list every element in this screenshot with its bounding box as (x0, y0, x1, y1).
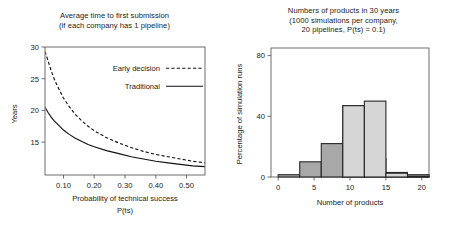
right-y-axis-label: Percentage of simulation runs (235, 64, 244, 165)
left-ytick-30: 30 (31, 43, 39, 52)
left-y-ticks (42, 47, 46, 142)
histogram-bar (407, 176, 429, 177)
histogram-bar (386, 173, 408, 177)
curve-traditional (45, 107, 205, 166)
left-xtick-050: 0.50 (179, 181, 194, 190)
histogram-bar (321, 144, 343, 177)
right-ytick-40: 40 (257, 112, 265, 121)
left-ytick-25: 25 (31, 75, 39, 84)
left-x-axis-label-line1: Probability of technical success (72, 194, 178, 203)
right-ytick-80: 80 (257, 51, 265, 60)
left-ytick-15: 15 (31, 138, 39, 147)
histogram-bars (278, 101, 429, 177)
right-xtick-5: 5 (312, 183, 316, 192)
histogram-bar (278, 175, 300, 177)
histogram-bar (300, 162, 322, 177)
left-chart-legend: Early decision Traditional (113, 64, 203, 91)
left-x-ticks (64, 175, 187, 179)
left-xtick-020: 0.20 (87, 181, 102, 190)
left-x-axis-label-line2: P(ts) (117, 206, 134, 215)
figure-two-panel-chart: Average time to first submission (if eac… (0, 0, 458, 240)
right-xtick-15: 15 (382, 183, 390, 192)
left-ytick-20: 20 (31, 106, 39, 115)
right-xtick-0: 0 (276, 183, 280, 192)
left-xtick-040: 0.40 (148, 181, 163, 190)
right-chart-svg: 0 40 80 Percentage of simulation runs 0 … (229, 0, 458, 240)
left-chart-svg: 30 25 20 15 Years 0.10 0.20 0.30 0.40 0.… (0, 0, 229, 240)
right-x-axis-label: Number of products (317, 198, 384, 207)
legend-label-traditional: Traditional (125, 82, 160, 91)
legend-label-early-decision: Early decision (113, 64, 160, 73)
right-xtick-20: 20 (418, 183, 426, 192)
left-xtick-030: 0.30 (118, 181, 133, 190)
left-y-axis-label: Years (10, 104, 19, 123)
right-ytick-0: 0 (261, 173, 265, 182)
right-xtick-10: 10 (346, 183, 354, 192)
right-y-ticks (268, 56, 272, 177)
histogram-bar (364, 101, 386, 177)
left-xtick-010: 0.10 (56, 181, 71, 190)
histogram-bar (343, 106, 365, 177)
panel-average-time-to-first-submission: Average time to first submission (if eac… (0, 0, 229, 240)
panel-numbers-of-products: Numbers of products in 30 years (1000 si… (229, 0, 458, 240)
